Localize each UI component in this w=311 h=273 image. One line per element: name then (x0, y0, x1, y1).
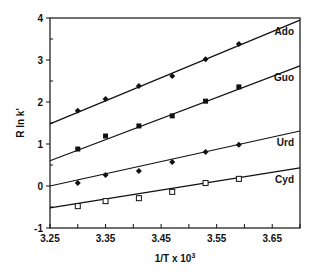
fit-line (50, 20, 300, 124)
data-point-diamond (203, 56, 209, 62)
x-axis-title-text: 1/T x 10 (155, 253, 192, 264)
data-point-square (236, 84, 241, 89)
data-point-square (136, 123, 141, 128)
fit-line (50, 66, 300, 161)
x-axis-title-superscript: 3 (191, 252, 195, 259)
series-label: Cyd (275, 174, 294, 185)
data-point-diamond (236, 142, 242, 148)
data-point-open-square (136, 196, 141, 201)
series-ado: Ado (50, 20, 300, 124)
y-tick-label: 3 (37, 55, 43, 66)
chart: 3.253.353.453.553.65 -101234 AdoGuoUrdCy… (0, 0, 311, 273)
series-label: Urd (277, 137, 294, 148)
data-point-square (75, 147, 80, 152)
plot-border (50, 18, 300, 228)
fit-line (50, 131, 300, 186)
series-label: Ado (275, 26, 294, 37)
fit-line (50, 168, 300, 208)
data-point-open-square (75, 204, 80, 209)
x-tick-label: 3.65 (262, 233, 282, 244)
data-point-open-square (170, 189, 175, 194)
y-axis-title: R ln k' (15, 108, 26, 138)
y-tick-label: 0 (37, 181, 43, 192)
data-point-diamond (203, 149, 209, 155)
data-point-square (170, 113, 175, 118)
series-label: Guo (274, 72, 294, 83)
x-axis: 3.253.353.453.553.65 (40, 224, 300, 244)
y-tick-label: 4 (37, 13, 43, 24)
data-point-diamond (136, 168, 142, 174)
series-cyd: Cyd (50, 168, 300, 209)
series-guo: Guo (50, 66, 300, 161)
y-tick-label: 1 (37, 139, 43, 150)
series-urd: Urd (50, 131, 300, 186)
series-layer: AdoGuoUrdCyd (50, 20, 300, 209)
data-point-open-square (103, 199, 108, 204)
x-tick-label: 3.35 (96, 233, 116, 244)
y-tick-label: -1 (34, 223, 43, 234)
data-point-open-square (236, 176, 241, 181)
x-axis-title: 1/T x 103 (155, 252, 196, 264)
data-point-square (103, 134, 108, 139)
x-tick-label: 3.45 (151, 233, 171, 244)
x-tick-label: 3.55 (207, 233, 227, 244)
plot-area (50, 18, 300, 228)
data-point-square (203, 99, 208, 104)
x-tick-label: 3.25 (40, 233, 60, 244)
data-point-open-square (203, 181, 208, 186)
y-tick-label: 2 (37, 97, 43, 108)
